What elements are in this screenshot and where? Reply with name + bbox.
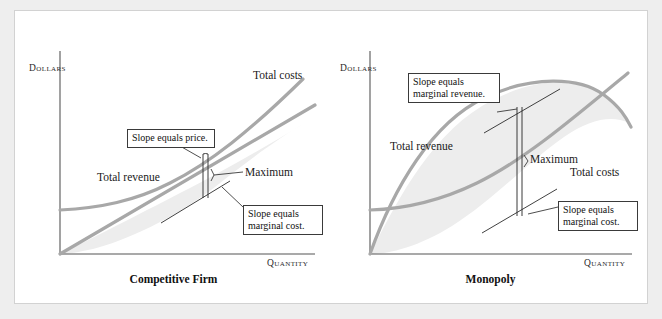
x-axis-label: Quantity [584,258,625,268]
y-axis-label: Dollars [29,63,66,73]
chart-panel-monopoly: Dollars Quantity Total revenue Total cos… [332,11,649,305]
y-axis-label: Dollars [340,63,377,73]
panel-title-monopoly: Monopoly [332,273,649,285]
chart-panel-competitive-firm: Dollars Quantity Total costs Total reven… [15,11,332,305]
panel-title-competitive-firm: Competitive Firm [15,273,332,285]
x-axis-label: Quantity [267,258,308,268]
callout-slope-equals-marginal-revenue: Slope equals marginal revenue. [408,73,500,103]
figure-inner-panel: Dollars Quantity Total costs Total reven… [14,10,648,304]
callout-marginal-cost-leader [528,207,558,214]
callout-marginal-cost-leader [222,187,243,207]
callout-slope-equals-price: Slope equals price. [127,129,215,148]
callout-slope-equals-marginal-cost: Slope equals marginal cost. [243,205,323,235]
total-revenue-label: Total revenue [97,171,160,183]
tangent-marginal-cost [482,189,557,233]
maximum-gap-bracket [203,154,208,155]
figure-container: Dollars Quantity Total costs Total reven… [0,0,662,319]
maximum-label: Maximum [530,153,578,165]
callout-slope-equals-marginal-cost: Slope equals marginal cost. [558,201,638,231]
total-revenue-label: Total revenue [390,140,453,152]
total-costs-label: Total costs [570,166,619,178]
total-costs-label: Total costs [253,69,302,81]
maximum-label: Maximum [245,166,293,178]
